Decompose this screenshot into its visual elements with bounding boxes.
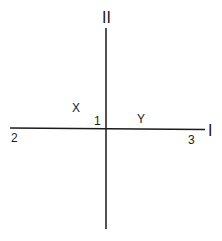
region-label-x: X bbox=[72, 102, 80, 114]
region-label-y: Y bbox=[137, 113, 145, 125]
point-label-3: 3 bbox=[188, 134, 195, 146]
vertical-axis-label: II bbox=[102, 10, 111, 26]
horizontal-axis-line bbox=[10, 128, 205, 130]
point-label-2: 2 bbox=[11, 132, 18, 144]
point-label-1: 1 bbox=[94, 115, 101, 127]
axes-diagram bbox=[0, 0, 222, 241]
horizontal-axis-label: I bbox=[208, 123, 212, 139]
